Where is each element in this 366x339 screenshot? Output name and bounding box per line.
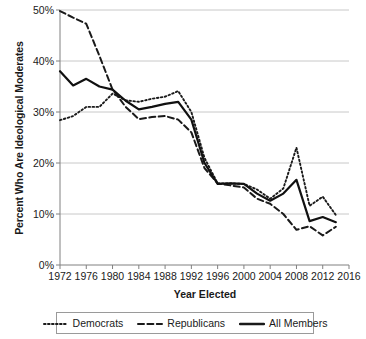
series-line-all-members [60, 71, 336, 222]
series-line-republicans [60, 11, 336, 235]
x-tick-label: 2000 [232, 270, 255, 282]
x-tick-label: 1984 [127, 270, 150, 282]
x-tick-label: 1976 [75, 270, 98, 282]
x-tick-label: 1980 [101, 270, 124, 282]
line-chart: Percent Who Are Ideological Moderates 0%… [0, 0, 366, 339]
x-tick-label: 2012 [311, 270, 334, 282]
legend-swatch-solid [239, 319, 265, 328]
x-tick-label: 1972 [48, 270, 71, 282]
x-tick-label: 2004 [258, 270, 281, 282]
legend-label: Republicans [167, 317, 225, 329]
legend-swatch-dashed [137, 319, 163, 328]
x-tick-label: 2008 [285, 270, 308, 282]
x-tick-label: 1988 [153, 270, 176, 282]
chart-legend: DemocratsRepublicansAll Members [56, 312, 314, 334]
legend-item-democrats: Democrats [43, 317, 124, 329]
legend-label: All Members [269, 317, 327, 329]
legend-label: Democrats [73, 317, 124, 329]
x-tick-label: 1992 [180, 270, 203, 282]
x-axis-title: Year Elected [55, 288, 355, 300]
legend-item-all-members: All Members [239, 317, 327, 329]
legend-item-republicans: Republicans [137, 317, 225, 329]
x-tick-label: 2016 [337, 270, 360, 282]
x-tick-label: 1996 [206, 270, 229, 282]
legend-swatch-dotted [43, 319, 69, 328]
